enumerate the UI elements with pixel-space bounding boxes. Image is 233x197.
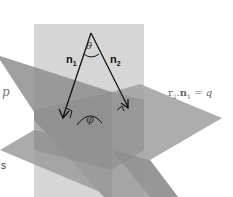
eq-rhs: = q (194, 87, 212, 98)
normal-n1-label: n1 (66, 53, 77, 67)
eq-n-sub: 1 (187, 93, 191, 100)
normal-n2-label: n2 (110, 53, 121, 67)
theta-label: θ (86, 40, 92, 51)
n2-sub: 2 (117, 60, 121, 67)
n1-sub: 1 (73, 60, 77, 67)
n1-base: n (66, 53, 73, 65)
n2-base: n (110, 53, 117, 65)
right-plane-equation: r2.n1 = q (168, 87, 212, 100)
bottom-left-fragment: s (1, 160, 6, 171)
phi-label: φ (86, 113, 94, 126)
left-plane-label: p (2, 85, 10, 99)
eq-n: n (180, 87, 187, 98)
